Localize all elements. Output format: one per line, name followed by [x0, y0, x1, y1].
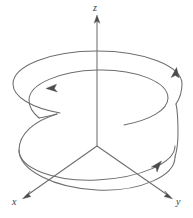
- x-axis-arrowhead: [23, 191, 31, 199]
- helix-right-connector: [175, 104, 178, 157]
- helix-arrow-lower-right: [151, 161, 161, 172]
- y-axis-label: y: [176, 197, 180, 207]
- z-axis-label: z: [93, 3, 97, 13]
- axes-group: [26, 18, 169, 196]
- y-axis-arrowhead: [164, 191, 172, 199]
- diagram-canvas: [0, 0, 193, 218]
- x-axis-label: x: [12, 197, 16, 207]
- x-axis-line: [26, 146, 97, 196]
- helix-diagram-figure: z x y: [0, 0, 193, 218]
- y-axis-line: [97, 146, 169, 196]
- helix-arrow-upper-left: [46, 84, 57, 92]
